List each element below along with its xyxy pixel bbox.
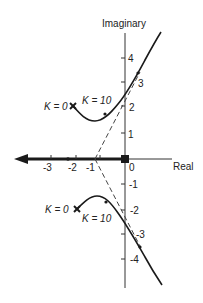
- upper-asymptote: [95, 72, 140, 159]
- lower-k0-label: K = 0: [45, 204, 69, 215]
- lower-k10-label: K = 10: [82, 213, 112, 224]
- x-tick-label: -3: [43, 162, 52, 173]
- origin-pole-square: [121, 155, 129, 163]
- upper-locus-branch: [73, 32, 161, 121]
- root-locus-diagram: Imaginary Real -3 -2 -1 0 4 3 2 1 -1 -2 …: [0, 0, 203, 303]
- y-tick-label: -2: [130, 205, 139, 216]
- y-tick-label: 1: [128, 129, 134, 140]
- lower-pole-x-icon: [74, 206, 80, 212]
- x-tick-label: -1: [86, 162, 95, 173]
- y-axis-label: Imaginary: [102, 18, 146, 29]
- y-tick-label: -1: [129, 179, 138, 190]
- locus-point: [66, 157, 70, 161]
- y-tick-label: 4: [128, 53, 134, 64]
- x-axis-label: Real: [173, 161, 194, 172]
- locus-point: [138, 245, 141, 248]
- x-tick-label: -2: [68, 162, 77, 173]
- upper-k0-label: K = 0: [44, 101, 68, 112]
- lower-locus-branch: [77, 196, 162, 285]
- locus-point: [104, 200, 107, 203]
- y-tick-label: -3: [136, 229, 145, 240]
- upper-k10-label: K = 10: [82, 95, 112, 106]
- y-tick-label: 2: [129, 102, 135, 113]
- y-tick-label: 3: [138, 78, 144, 89]
- arrow-left-icon: [14, 154, 28, 164]
- x-tick-label: 0: [129, 162, 135, 173]
- y-tick-label: -4: [130, 254, 139, 265]
- locus-point: [103, 112, 106, 115]
- upper-pole-x-icon: [70, 103, 76, 109]
- locus-point: [136, 71, 139, 74]
